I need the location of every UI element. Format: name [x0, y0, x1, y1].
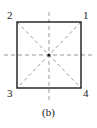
corner-label-1: 1	[83, 10, 89, 21]
corner-label-3: 3	[7, 88, 13, 99]
corner-label-4: 4	[83, 88, 89, 99]
figure-container: 2 1 3 4 (b)	[0, 0, 97, 128]
center-point-marker	[47, 53, 50, 56]
corner-label-2: 2	[7, 10, 13, 21]
figure-caption: (b)	[0, 106, 97, 119]
